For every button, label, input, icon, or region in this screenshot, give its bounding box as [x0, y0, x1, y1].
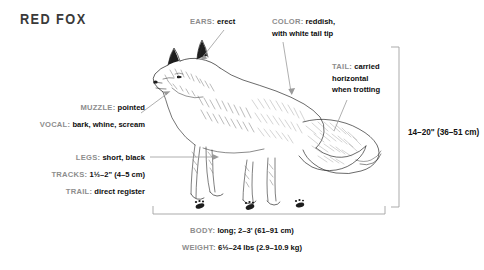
callout-tail: TAIL: carried horizontal when trotting — [332, 61, 380, 96]
callout-muzzle: MUZZLE: pointed — [0, 102, 145, 114]
callout-vocal-label: VOCAL: — [40, 120, 71, 129]
callout-tracks: TRACKS: 1½–2" (4–5 cm) — [0, 169, 145, 181]
callout-weight-label: WEIGHT: — [182, 243, 216, 252]
height-dimension-metric: (36–51 cm) — [437, 128, 479, 137]
callout-trail-value: direct register — [94, 187, 145, 196]
leader-legs-head — [213, 154, 220, 160]
callout-muzzle-value: pointed — [118, 103, 145, 112]
callout-tail-value-1: carried — [354, 62, 379, 71]
callout-vocal: VOCAL: bark, whine, scream — [0, 119, 145, 131]
leader-ears — [202, 30, 224, 58]
callout-body-label: BODY: — [190, 226, 215, 235]
leader-color — [283, 42, 291, 92]
callout-trail-label: TRAIL: — [66, 187, 92, 196]
body-height-bracket — [391, 47, 399, 207]
body-length-bracket — [153, 206, 385, 214]
callout-tail-label: TAIL: — [332, 62, 352, 71]
callout-ears-value: erect — [217, 17, 235, 26]
callout-legs: LEGS: short, black — [0, 152, 145, 164]
callout-ears-label: EARS: — [190, 17, 215, 26]
callout-body-value: long; 2–3' (61–91 cm) — [217, 226, 294, 235]
callout-weight: WEIGHT: 6½–24 lbs (2.9–10.9 kg) — [0, 242, 484, 254]
callout-color-value-1: reddish, — [306, 17, 336, 26]
callout-color: COLOR: reddish, with white tail tip — [272, 16, 335, 39]
callout-weight-value: 6½–24 lbs (2.9–10.9 kg) — [218, 243, 302, 252]
callout-tracks-value: 1½–2" (4–5 cm) — [89, 170, 145, 179]
callout-legs-value: short, black — [102, 153, 145, 162]
callout-color-value-2: with white tail tip — [272, 29, 333, 38]
leader-color-head — [288, 88, 295, 95]
leader-tail — [334, 100, 347, 131]
height-dimension: 14–20" (36–51 cm) — [408, 127, 479, 139]
leader-muzzle — [141, 93, 168, 113]
callout-vocal-value: bark, whine, scream — [72, 120, 145, 129]
height-dimension-imperial: 14–20" — [408, 128, 435, 137]
callout-trail: TRAIL: direct register — [0, 186, 145, 198]
callout-tail-value-2: horizontal — [332, 74, 368, 83]
red-fox-infographic: RED FOX — [0, 0, 484, 270]
callout-muzzle-label: MUZZLE: — [80, 103, 115, 112]
callout-legs-label: LEGS: — [76, 153, 100, 162]
callout-color-label: COLOR: — [272, 17, 303, 26]
callout-ears: EARS: erect — [190, 16, 235, 28]
callout-tracks-label: TRACKS: — [51, 170, 87, 179]
callout-body: BODY: long; 2–3' (61–91 cm) — [0, 225, 484, 237]
callout-tail-value-3: when trotting — [332, 85, 380, 94]
